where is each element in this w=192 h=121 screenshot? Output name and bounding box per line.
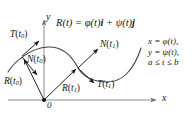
- title-term2-unit-vector: j: [132, 17, 135, 28]
- parametric-line-domain: a ≤ t ≤ b: [148, 57, 179, 68]
- parametric-equations: x = φ(t), y = ψ(t), a ≤ t ≤ b: [148, 36, 179, 68]
- position-vector-t0: [24, 59, 44, 100]
- label-normal-t0: N(t0): [27, 55, 46, 65]
- label-tangent-t0: T(t0): [10, 30, 28, 40]
- x-axis-label: x: [162, 93, 166, 103]
- vector-curve-figure: y x 0 R(t) = φ(t)i + ψ(t)j x = φ(t), y =…: [0, 0, 192, 121]
- tangent-vector-t1: [78, 68, 94, 83]
- title-lhs: R(t) =: [56, 17, 85, 28]
- label-tangent-t1: T(t1): [97, 80, 115, 90]
- origin-point: [42, 98, 46, 102]
- origin-label: 0: [47, 101, 52, 110]
- title-term1-function: φ(t): [85, 17, 101, 28]
- normal-vector-t1: [78, 49, 98, 68]
- label-normal-t1: N(t1): [100, 40, 119, 50]
- parametric-line-x: x = φ(t),: [148, 36, 179, 47]
- y-axis-label: y: [46, 12, 50, 22]
- vector-equation-title: R(t) = φ(t)i + ψ(t)j: [56, 18, 135, 29]
- parametric-line-y: y = ψ(t),: [148, 47, 179, 58]
- title-plus: +: [103, 17, 115, 28]
- label-position-t0: R(t0): [4, 77, 22, 87]
- label-position-t1: R(t1): [62, 84, 80, 94]
- title-term2-function: ψ(t): [116, 17, 132, 28]
